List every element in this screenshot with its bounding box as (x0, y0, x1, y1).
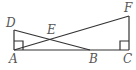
label-f: F (123, 1, 133, 15)
label-b: B (88, 52, 98, 66)
right-angle-mark-c (120, 41, 129, 50)
label-d: D (5, 16, 16, 30)
label-c: C (123, 52, 132, 66)
diagram-canvas: D E A B C F (0, 0, 136, 70)
geometry-diagram: D E A B C F (0, 0, 136, 70)
label-a: A (8, 52, 18, 66)
label-e: E (46, 23, 56, 37)
